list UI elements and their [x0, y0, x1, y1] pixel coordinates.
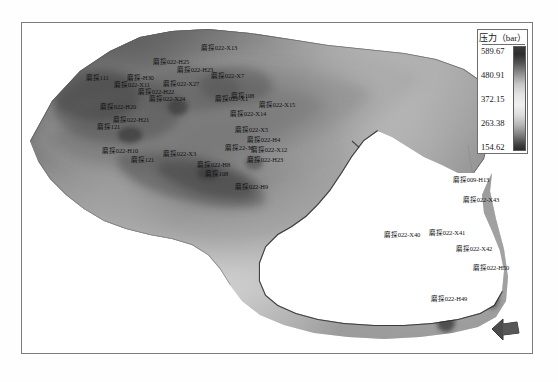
pressure-legend: 压力（bar） 589.67 480.91 372.15 263.38 154.…: [477, 29, 528, 154]
well-label[interactable]: 磨探022-X41: [429, 230, 465, 237]
legend-tick: 372.15: [481, 94, 512, 104]
well-label[interactable]: 磨探009-H13: [453, 177, 489, 184]
legend-tick: 480.91: [481, 70, 512, 80]
well-label[interactable]: 磨探022-H9: [235, 184, 268, 191]
map-frame: 磨探022-X13 磨探022-H25 磨探022-H23 磨探022-X7 磨…: [21, 22, 533, 354]
well-label[interactable]: 磨探022-H23: [177, 67, 213, 74]
pressure-contour-map: [22, 23, 532, 353]
well-label[interactable]: 磨探022-H10: [102, 148, 138, 155]
well-label[interactable]: 磨探022-H25: [153, 59, 189, 66]
well-label[interactable]: 磨探022-X5: [235, 127, 268, 134]
well-label[interactable]: 磨探022-X7: [211, 73, 244, 80]
well-label[interactable]: 磨探022-X12: [251, 147, 287, 154]
north-arrow-icon: [490, 313, 524, 345]
north-arrow: [490, 313, 524, 345]
well-label[interactable]: 磨探022-X27: [163, 81, 199, 88]
well-label[interactable]: 磨探22-36: [225, 145, 253, 152]
well-label[interactable]: 磨探022-H8: [197, 162, 230, 169]
well-label[interactable]: 磨探022-X14: [230, 111, 266, 118]
legend-color-ramp: [513, 46, 526, 151]
figure-page: 磨探022-X13 磨探022-H25 磨探022-H23 磨探022-X7 磨…: [0, 0, 558, 382]
legend-title-divider: [482, 44, 525, 45]
contour-fill-group: [22, 23, 533, 354]
legend-tick: 154.62: [481, 142, 512, 152]
legend-tick: 263.38: [481, 118, 512, 128]
contour-surface: [22, 23, 533, 354]
legend-scale: 589.67 480.91 372.15 263.38 154.62: [481, 46, 526, 151]
well-label[interactable]: 磨探022-X42: [456, 246, 492, 253]
well-label[interactable]: 磨探022-H20: [100, 104, 136, 111]
well-label[interactable]: 磨探022-X43: [463, 197, 499, 204]
well-label[interactable]: 磨探121: [97, 124, 120, 131]
well-label[interactable]: 磨探022-H23: [247, 157, 283, 164]
well-label[interactable]: 磨探121: [131, 157, 154, 164]
well-label[interactable]: 磨探108: [205, 171, 228, 178]
well-label[interactable]: 磨探022-H50: [473, 265, 509, 272]
well-label[interactable]: 磨探022-X3: [163, 151, 196, 158]
well-label[interactable]: 磨探022-X13: [201, 45, 237, 52]
well-label[interactable]: 磨探108: [231, 93, 254, 100]
well-label[interactable]: 磨探111: [86, 75, 109, 82]
well-label[interactable]: 磨探022-X24: [149, 96, 185, 103]
legend-title: 压力（bar）: [478, 31, 527, 44]
well-label[interactable]: 磨探022-X40: [384, 232, 420, 239]
well-label[interactable]: 磨探022-H49: [431, 296, 467, 303]
legend-tick: 589.67: [481, 46, 512, 56]
well-label[interactable]: 磨探022-X15: [259, 102, 295, 109]
well-label[interactable]: 磨探022-H4: [247, 137, 280, 144]
